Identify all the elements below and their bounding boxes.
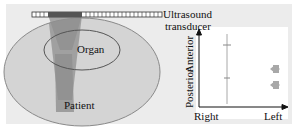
transducer-array-icon [32, 12, 162, 17]
diagram-graphics [0, 0, 294, 132]
echo-markers [270, 65, 280, 89]
scan-line [223, 34, 231, 104]
organ-label: Organ [77, 44, 104, 55]
transducer-label-line2: transducer [165, 21, 211, 32]
x-axis-label-left: Left [264, 111, 282, 122]
x-axis-label-right: Right [194, 111, 218, 122]
y-axis-label-posterior: Posterior [184, 68, 195, 108]
transducer-label: Ultrasound [163, 9, 212, 20]
patient-label: Patient [64, 100, 95, 111]
